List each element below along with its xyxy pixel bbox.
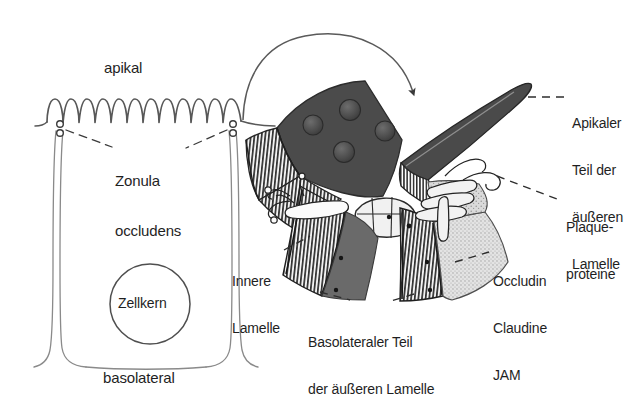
label-plaque-proteins: Plaque- proteine [566,189,615,299]
label-basoteil-line1: Basolateraler Teil [308,335,434,351]
label-apikaler-line2: Teil der [572,163,623,179]
label-zonula-line2: occludens [115,223,181,240]
label-occludin-line1: Occludin [493,274,547,290]
label-apical: apikal [104,60,142,77]
label-basoteil-line2: der äußeren Lamelle [308,382,434,398]
label-occludin-line3: JAM [493,368,547,384]
label-zonula-line1: Zonula [115,173,181,190]
label-apikaler-line1: Apikaler [572,116,623,132]
label-innere-line2: Lamelle [232,321,280,337]
label-occludin-line2: Claudine [493,321,547,337]
label-innere-line1: Innere [232,274,280,290]
label-plaque-line2: proteine [566,267,615,283]
label-zonula-occludens: Zonula occludens [115,139,181,257]
label-plaque-line1: Plaque- [566,220,615,236]
label-nucleus: Zellkern [118,296,167,312]
label-transmembrane-proteins: Occludin Claudine JAM [493,243,547,400]
label-basolateral-outer-lamella: Basolateraler Teil der äußeren Lamelle [308,304,434,414]
label-basolateral: basolateral [103,370,175,387]
label-inner-lamella: Innere Lamelle [232,243,280,353]
